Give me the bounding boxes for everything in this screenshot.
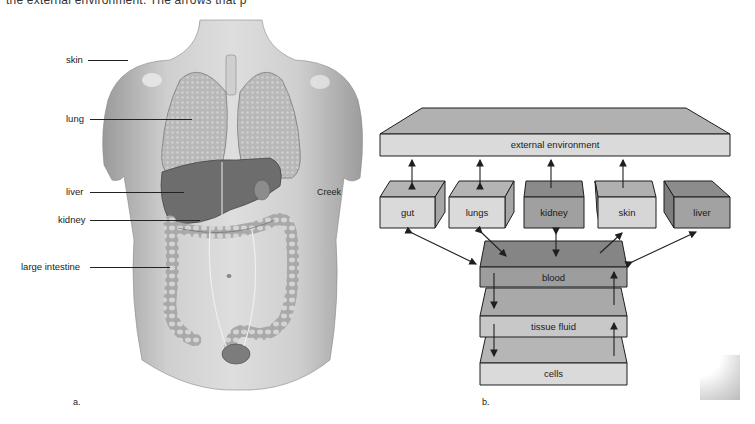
label-liver-box: liver bbox=[674, 207, 730, 218]
panel-a-anatomy: skin lung liver kidney large intestine C… bbox=[0, 0, 370, 424]
label-external-environment: external environment bbox=[380, 139, 730, 150]
organ-box-kidney bbox=[524, 181, 584, 228]
leader-line-lung bbox=[90, 119, 192, 120]
label-blood: blood bbox=[480, 272, 627, 283]
illustrator-credit: Creek bbox=[317, 187, 341, 197]
label-tissue-fluid: tissue fluid bbox=[480, 321, 627, 332]
organ-box-skin bbox=[595, 181, 656, 228]
label-skin: skin bbox=[66, 54, 83, 65]
label-lung: lung bbox=[66, 113, 84, 124]
label-large-intestine: large intestine bbox=[21, 261, 80, 272]
organ-box-lungs bbox=[449, 181, 514, 228]
label-cells: cells bbox=[480, 368, 627, 379]
page-curl-shadow bbox=[700, 355, 740, 400]
label-lungs: lungs bbox=[449, 207, 505, 218]
label-liver: liver bbox=[66, 186, 83, 197]
label-skin-box: skin bbox=[598, 207, 656, 218]
label-kidney: kidney bbox=[58, 214, 85, 225]
leader-line-skin bbox=[88, 60, 128, 61]
leader-line-liver bbox=[90, 192, 184, 193]
organ-box-liver bbox=[664, 181, 730, 228]
panel-letter-b: b. bbox=[482, 397, 490, 407]
anatomical-torso-illustration bbox=[0, 0, 370, 424]
leader-line-large-intestine bbox=[90, 267, 170, 268]
panel-letter-a: a. bbox=[73, 397, 81, 407]
label-gut: gut bbox=[380, 207, 435, 218]
organ-box-gut bbox=[380, 181, 445, 228]
arrow-gut-blood bbox=[412, 233, 476, 264]
leader-line-kidney bbox=[90, 220, 200, 221]
label-kidney-box: kidney bbox=[524, 207, 584, 218]
panel-b-diagram: external environment gut lungs kidney sk… bbox=[370, 0, 755, 424]
arrow-liver-blood bbox=[632, 232, 696, 262]
